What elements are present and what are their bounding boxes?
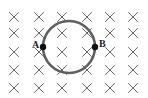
field-into-page-icon [10,13,19,22]
point-a [40,44,46,50]
field-into-page-icon [35,66,44,75]
field-into-page-icon [58,29,67,38]
field-into-page-icon [10,48,19,57]
field-into-page-icon [10,66,19,75]
field-into-page-icon [58,84,67,93]
field-into-page-icon [106,29,115,38]
magnetic-field-diagram: A B [0,0,148,98]
field-into-page-icon [83,13,92,22]
field-into-page-icon [106,13,115,22]
wire-loop [43,21,95,73]
field-marks [10,13,138,93]
field-into-page-icon [10,29,19,38]
field-into-page-icon [58,48,67,57]
label-b: B [99,38,106,49]
point-b [92,44,98,50]
field-into-page-icon [129,13,138,22]
field-into-page-icon [10,84,19,93]
field-into-page-icon [35,13,44,22]
field-into-page-icon [35,29,44,38]
field-into-page-icon [129,84,138,93]
field-into-page-icon [83,84,92,93]
field-into-page-icon [129,48,138,57]
field-into-page-icon [129,29,138,38]
field-into-page-icon [106,84,115,93]
field-into-page-icon [106,66,115,75]
field-into-page-icon [129,66,138,75]
field-into-page-icon [106,48,115,57]
field-into-page-icon [83,48,92,57]
label-a: A [32,39,40,50]
field-into-page-icon [35,84,44,93]
